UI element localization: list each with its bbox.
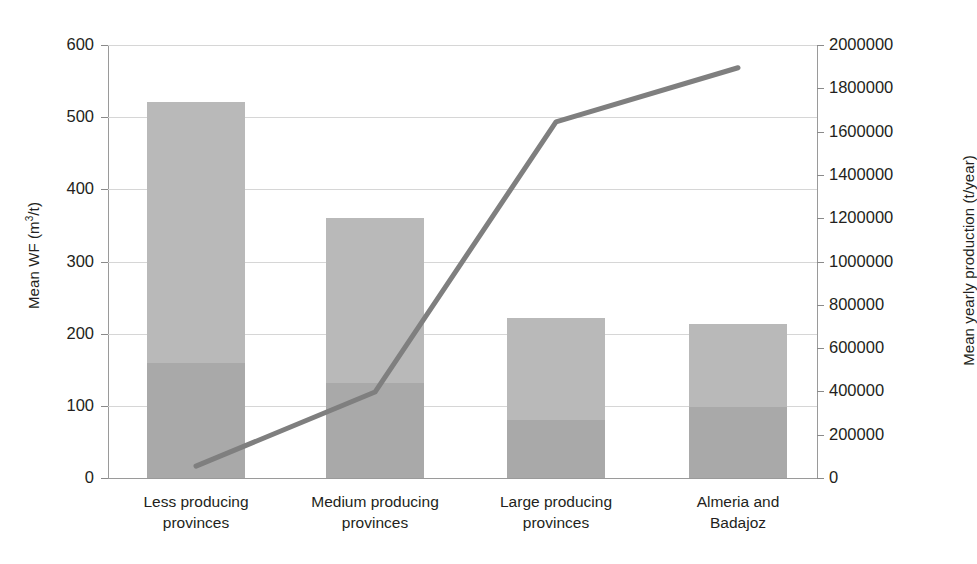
y-axis-right-tick-label: 1400000	[829, 166, 893, 183]
y-axis-left-title-prefix: Mean WF (m	[25, 221, 42, 309]
y-axis-left-tick	[101, 334, 108, 335]
y-axis-right-tick	[817, 218, 824, 219]
x-axis-label-line: Less producing	[101, 492, 291, 513]
y-axis-left-tick	[101, 406, 108, 407]
y-axis-left-title: Mean WF (m3/t)	[25, 146, 42, 366]
y-axis-left-tick-label: 200	[66, 325, 94, 342]
y-axis-right-tick-label: 200000	[829, 426, 884, 443]
y-axis-left-tick-label: 0	[85, 469, 94, 486]
y-axis-left-tick	[101, 262, 108, 263]
y-axis-right-tick	[817, 348, 824, 349]
x-axis-label-line: Almeria and	[643, 492, 833, 513]
y-axis-right-tick	[817, 478, 824, 479]
x-axis-label-line: provinces	[280, 513, 470, 534]
x-axis-label: Almeria andBadajoz	[643, 492, 833, 534]
x-axis-label: Medium producingprovinces	[280, 492, 470, 534]
y-axis-right-tick	[817, 305, 824, 306]
y-axis-left-tick-label: 100	[66, 397, 94, 414]
y-axis-right-tick	[817, 45, 824, 46]
y-axis-right-tick-label: 2000000	[829, 36, 893, 53]
y-axis-right-tick-label: 1200000	[829, 209, 893, 226]
y-axis-right-tick	[817, 435, 824, 436]
y-axis-right-tick	[817, 132, 824, 133]
y-axis-left-tick-label: 500	[66, 108, 94, 125]
y-axis-left-tick-label: 600	[66, 36, 94, 53]
x-axis-label-line: provinces	[101, 513, 291, 534]
gridline	[108, 478, 817, 479]
x-axis-label: Large producingprovinces	[461, 492, 651, 534]
y-axis-left-tick	[101, 189, 108, 190]
x-axis-label-line: provinces	[461, 513, 651, 534]
y-axis-right-tick-label: 1600000	[829, 123, 893, 140]
x-axis-label-line: Large producing	[461, 492, 651, 513]
x-axis-label-line: Badajoz	[643, 513, 833, 534]
y-axis-right-tick	[817, 391, 824, 392]
x-axis-label-line: Medium producing	[280, 492, 470, 513]
y-axis-right-tick	[817, 175, 824, 176]
y-axis-right-tick-label: 0	[829, 469, 838, 486]
y-axis-left-tick	[101, 478, 108, 479]
y-axis-right-tick	[817, 88, 824, 89]
y-axis-right-tick-label: 1000000	[829, 253, 893, 270]
y-axis-left-tick-label: 400	[66, 180, 94, 197]
y-axis-left-title-suffix: /t)	[25, 202, 42, 216]
y-axis-right-tick-label: 800000	[829, 296, 884, 313]
y-axis-left-tick-label: 300	[66, 253, 94, 270]
plot-area	[108, 45, 817, 478]
production-line	[196, 68, 738, 466]
y-axis-right-tick-label: 600000	[829, 339, 884, 356]
line-series	[108, 45, 817, 478]
y-axis-left-tick	[101, 117, 108, 118]
x-axis-label: Less producingprovinces	[101, 492, 291, 534]
y-axis-right-title: Mean yearly production (t/year)	[960, 111, 977, 411]
y-axis-right-tick	[817, 262, 824, 263]
y-axis-left-tick	[101, 45, 108, 46]
y-axis-right-tick-label: 1800000	[829, 79, 893, 96]
y-axis-right-tick-label: 400000	[829, 382, 884, 399]
y-axis-left-title-sup: 3	[24, 216, 35, 222]
